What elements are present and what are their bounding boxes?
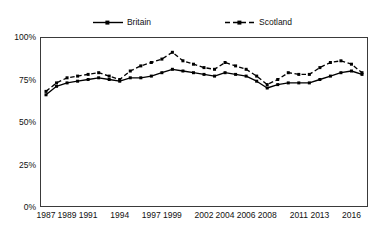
series-line-scotland — [46, 52, 362, 91]
x-axis-tick-2004: 2004 — [216, 211, 235, 220]
solid-line-marker-icon — [93, 18, 123, 27]
data-point — [76, 80, 79, 83]
data-point — [266, 87, 269, 90]
data-point — [87, 78, 90, 81]
data-point — [287, 81, 290, 84]
data-point — [192, 71, 195, 74]
data-point — [234, 64, 237, 67]
legend-label-britain: Britain — [127, 18, 151, 27]
y-axis-tick-25pct: 25% — [0, 160, 36, 169]
data-point — [350, 63, 353, 66]
line-chart: Britain Scotland 0%25%50%75%100% 1987198… — [0, 0, 385, 242]
data-point — [318, 66, 321, 69]
data-point — [160, 71, 163, 74]
data-point — [329, 75, 332, 78]
x-axis-tick-1997: 1997 — [142, 211, 161, 220]
data-point — [276, 83, 279, 86]
data-point — [66, 76, 69, 79]
data-point — [297, 73, 300, 76]
y-axis-labels: 0%25%50%75%100% — [0, 0, 36, 242]
x-axis-tick-2016: 2016 — [342, 211, 361, 220]
data-point — [192, 63, 195, 66]
x-axis-tick-2011: 2011 — [290, 211, 308, 220]
data-point — [203, 66, 206, 69]
data-point — [234, 73, 237, 76]
series-britain — [45, 68, 364, 97]
x-axis-tick-1991: 1991 — [79, 211, 98, 220]
legend-entry-scotland: Scotland — [225, 18, 292, 27]
data-point — [276, 78, 279, 81]
data-point — [245, 75, 248, 78]
data-point — [139, 76, 142, 79]
y-axis-tick-100pct: 100% — [0, 33, 36, 42]
x-axis-tick-2002: 2002 — [195, 211, 214, 220]
data-point — [129, 76, 132, 79]
dashed-line-marker-icon — [225, 18, 255, 27]
data-point — [129, 70, 132, 73]
data-point — [150, 61, 153, 64]
data-point — [361, 71, 364, 74]
y-axis-tick-0pct: 0% — [0, 203, 36, 212]
data-point — [97, 76, 100, 79]
data-point — [97, 71, 100, 74]
x-axis-tick-1999: 1999 — [163, 211, 182, 220]
data-point — [297, 81, 300, 84]
data-point — [224, 61, 227, 64]
data-point — [139, 64, 142, 67]
data-point — [266, 83, 269, 86]
legend-label-scotland: Scotland — [259, 18, 292, 27]
data-point — [87, 73, 90, 76]
data-point — [329, 61, 332, 64]
data-point — [255, 75, 258, 78]
data-point — [308, 81, 311, 84]
data-point — [181, 59, 184, 62]
data-point — [224, 71, 227, 74]
y-axis-tick-50pct: 50% — [0, 118, 36, 127]
data-point — [245, 68, 248, 71]
x-axis-tick-1989: 1989 — [58, 211, 77, 220]
series-scotland — [45, 51, 364, 93]
data-point — [45, 90, 48, 93]
data-point — [108, 78, 111, 81]
data-point — [287, 71, 290, 74]
data-point — [118, 78, 121, 81]
data-point — [66, 81, 69, 84]
data-point — [108, 75, 111, 78]
x-axis-tick-2006: 2006 — [237, 211, 256, 220]
data-point — [339, 59, 342, 62]
data-point — [181, 70, 184, 73]
data-point — [213, 68, 216, 71]
x-axis-tick-1987: 1987 — [37, 211, 56, 220]
x-axis-tick-1994: 1994 — [110, 211, 129, 220]
legend-entry-britain: Britain — [93, 18, 151, 27]
x-axis-tick-2008: 2008 — [258, 211, 277, 220]
data-point — [171, 68, 174, 71]
data-point — [55, 85, 58, 88]
data-point — [160, 58, 163, 61]
data-point — [213, 75, 216, 78]
data-point — [76, 75, 79, 78]
data-point — [203, 73, 206, 76]
data-point — [55, 81, 58, 84]
plot-series-layer — [40, 37, 368, 207]
x-axis-tick-2013: 2013 — [310, 211, 329, 220]
data-point — [350, 70, 353, 73]
data-point — [308, 73, 311, 76]
data-point — [318, 78, 321, 81]
data-point — [150, 75, 153, 78]
data-point — [171, 51, 174, 54]
data-point — [45, 93, 48, 96]
chart-legend: Britain Scotland — [0, 13, 385, 31]
data-point — [339, 71, 342, 74]
x-axis-labels: 1987198919911994199719992002200420062008… — [40, 211, 368, 225]
y-axis-tick-75pct: 75% — [0, 75, 36, 84]
data-point — [255, 80, 258, 83]
